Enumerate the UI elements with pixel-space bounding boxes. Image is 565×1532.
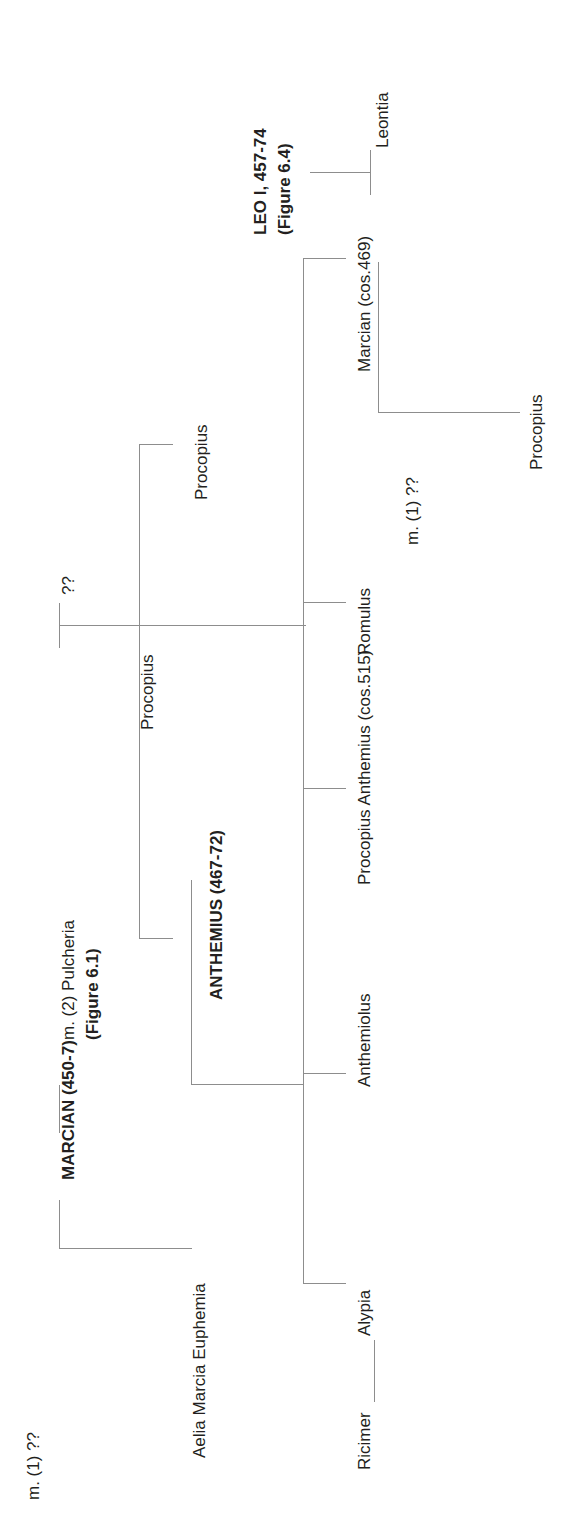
- label-ricimer: Ricimer: [356, 1412, 373, 1470]
- marcian-leontia-marriage-bar: [310, 172, 370, 173]
- family-tree-figure: LEO I, 457-74 (Figure 6.4) Leontia Marci…: [0, 0, 565, 1532]
- anthemius-euphemia-stem: [191, 880, 192, 1085]
- label-romulus: Romulus: [356, 588, 373, 655]
- procopius-upper-elbow: [139, 444, 173, 445]
- label-pulcheria-figure-ref: (Figure 6.1): [84, 948, 101, 1040]
- anthemius-euphemia-to-spine: [191, 1084, 304, 1085]
- label-leo-i: LEO I, 457-74: [252, 128, 269, 235]
- marcian450-to-euphemia-bar: [59, 1248, 192, 1249]
- marcian-cos469-descent-stem: [378, 262, 379, 412]
- alypia-ricimer-tick: [374, 1340, 375, 1402]
- label-procopius-anthemius-cos515: Procopius Anthemius (cos.515): [356, 650, 373, 885]
- marcian450-m1-tick: [59, 1200, 60, 1248]
- branch-to-procopius-anthemius: [303, 788, 346, 789]
- label-marriage-1-marcian-cos469: m. (1) ??: [404, 477, 421, 545]
- sibling-spine-main: [303, 258, 304, 1284]
- branch-to-alypia: [303, 1283, 346, 1284]
- label-procopius-upper: Procopius: [139, 654, 156, 730]
- label-aelia-marcia-euphemia: Aelia Marcia Euphemia: [191, 1283, 208, 1458]
- branch-to-romulus: [303, 602, 346, 603]
- label-procopius-lower: Procopius: [193, 424, 210, 500]
- label-marcian-cos469: Marcian (cos.469): [356, 236, 373, 372]
- label-leontia: Leontia: [374, 92, 391, 148]
- branch-to-anthemiolus: [303, 1073, 346, 1074]
- marcian-cos469-to-procopius-line: [378, 412, 520, 413]
- label-marcian-450-7: MARCIAN (450-7): [60, 1040, 77, 1180]
- label-marriage-2-pulcheria: m. (2) Pulcheria: [60, 920, 77, 1040]
- label-alypia: Alypia: [356, 1290, 373, 1336]
- marcian-leontia-tick: [370, 150, 371, 195]
- procopius-marriage-bar: [139, 625, 306, 626]
- procopius-marriage-left-bar: [59, 625, 140, 626]
- label-unknown-spouse-procopius: ??: [60, 576, 77, 595]
- label-procopius-son-of-marcian: Procopius: [528, 394, 545, 470]
- procopius-line-to-anthemius: [139, 938, 173, 939]
- label-marriage-1-marcian-450-7: m. (1) ??: [25, 1432, 42, 1500]
- label-anthemiolus: Anthemiolus: [356, 993, 373, 1087]
- branch-to-marcian-cos469: [303, 258, 346, 259]
- label-anthemius: ANTHEMIUS (467-72): [208, 830, 225, 1000]
- label-leo-i-figure-ref: (Figure 6.4): [276, 143, 293, 235]
